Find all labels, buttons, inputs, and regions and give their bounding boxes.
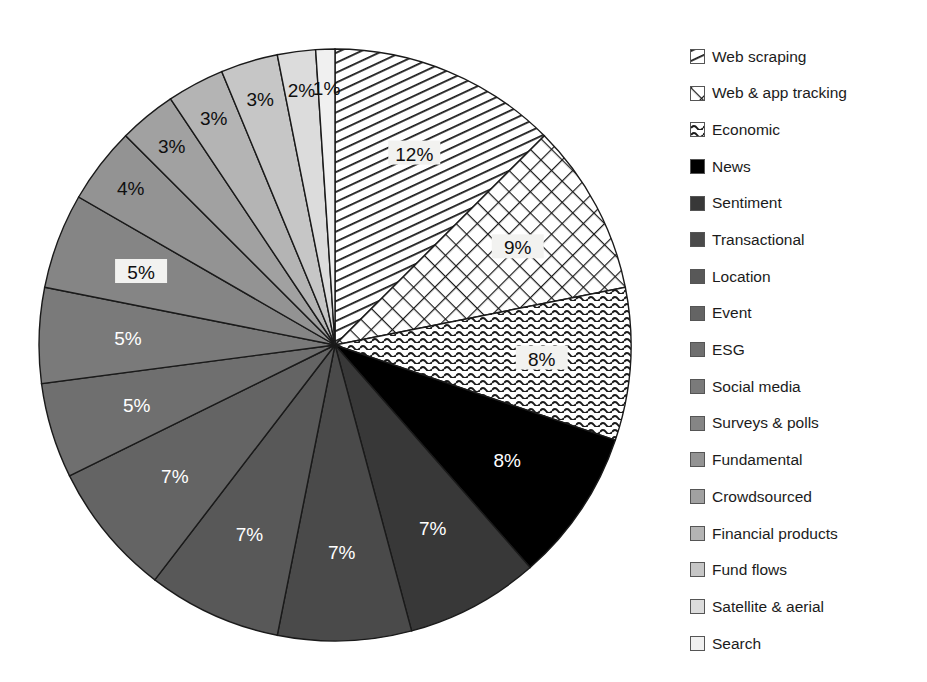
legend-item-label: Surveys & polls [712, 415, 819, 431]
legend-item[interactable]: Web scraping [690, 38, 922, 75]
legend-item-label: Crowdsourced [712, 489, 812, 505]
pie-chart-figure: 12%9%8%8%7%7%7%7%5%5%5%4%3%3%3%2%1% Web … [0, 0, 927, 682]
legend-item[interactable]: Satellite & aerial [690, 588, 922, 625]
legend-item-label: Satellite & aerial [712, 599, 824, 615]
legend-item[interactable]: Financial products [690, 515, 922, 552]
legend-swatch-icon [690, 49, 705, 64]
legend-item[interactable]: News [690, 148, 922, 185]
legend-item-label: ESG [712, 342, 745, 358]
legend-swatch-icon [690, 636, 705, 651]
legend-item-label: Sentiment [712, 195, 782, 211]
legend-item[interactable]: Social media [690, 368, 922, 405]
slice-value-label: 9% [504, 237, 532, 258]
legend-item[interactable]: Sentiment [690, 185, 922, 222]
legend-swatch-icon [690, 306, 705, 321]
legend-item-label: Fund flows [712, 562, 787, 578]
legend-item[interactable]: Search [690, 625, 922, 662]
slice-value-label: 5% [127, 262, 155, 283]
legend-item[interactable]: Fund flows [690, 552, 922, 589]
legend-item[interactable]: Fundamental [690, 442, 922, 479]
legend-item[interactable]: Economic [690, 111, 922, 148]
legend-swatch-icon [690, 122, 705, 137]
slice-value-label: 7% [161, 466, 189, 487]
slice-value-label: 3% [200, 108, 228, 129]
legend-item-label: Social media [712, 379, 801, 395]
slice-value-label: 8% [528, 349, 556, 370]
slice-value-label: 3% [158, 136, 186, 157]
legend-item[interactable]: Location [690, 258, 922, 295]
legend-swatch-icon [690, 342, 705, 357]
slice-value-label: 7% [236, 524, 264, 545]
slice-value-label: 8% [494, 450, 522, 471]
legend-item[interactable]: Surveys & polls [690, 405, 922, 442]
legend-item-label: Fundamental [712, 452, 802, 468]
chart-legend: Web scrapingWeb & app trackingEconomicNe… [690, 38, 922, 662]
legend-item[interactable]: Crowdsourced [690, 478, 922, 515]
legend-item[interactable]: Web & app tracking [690, 75, 922, 112]
legend-item-label: Financial products [712, 526, 838, 542]
legend-swatch-icon [690, 86, 705, 101]
legend-item-label: Web scraping [712, 49, 806, 65]
slice-value-label: 7% [328, 542, 356, 563]
legend-item-label: Transactional [712, 232, 804, 248]
pie-chart: 12%9%8%8%7%7%7%7%5%5%5%4%3%3%3%2%1% [0, 0, 690, 682]
legend-swatch-icon [690, 562, 705, 577]
legend-item[interactable]: ESG [690, 332, 922, 369]
slice-value-label: 7% [419, 518, 447, 539]
legend-swatch-icon [690, 599, 705, 614]
legend-item-label: News [712, 159, 751, 175]
legend-swatch-icon [690, 489, 705, 504]
legend-swatch-icon [690, 379, 705, 394]
slice-value-label: 3% [247, 89, 275, 110]
legend-swatch-icon [690, 452, 705, 467]
legend-item-label: Location [712, 269, 771, 285]
legend-swatch-icon [690, 269, 705, 284]
legend-item-label: Web & app tracking [712, 85, 847, 101]
slice-value-label: 12% [395, 144, 433, 165]
legend-swatch-icon [690, 526, 705, 541]
slice-value-label: 5% [114, 328, 142, 349]
legend-item[interactable]: Transactional [690, 221, 922, 258]
slice-value-label: 1% [313, 78, 341, 99]
legend-swatch-icon [690, 416, 705, 431]
slice-value-label: 4% [117, 178, 145, 199]
legend-swatch-icon [690, 232, 705, 247]
legend-item-label: Economic [712, 122, 780, 138]
legend-item-label: Event [712, 305, 752, 321]
slice-value-label: 5% [123, 395, 151, 416]
legend-swatch-icon [690, 159, 705, 174]
slice-value-label: 2% [288, 80, 316, 101]
legend-swatch-icon [690, 196, 705, 211]
legend-item-label: Search [712, 636, 761, 652]
legend-item[interactable]: Event [690, 295, 922, 332]
